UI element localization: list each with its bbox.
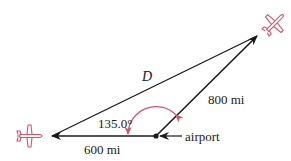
airport-point (153, 133, 158, 138)
distance-d-line (52, 36, 257, 136)
leg-800-label: 800 mi (208, 92, 245, 107)
angle-arc (128, 107, 176, 134)
leg-800-line (156, 36, 257, 136)
leg-600-label: 600 mi (84, 142, 121, 157)
airport-label: airport (185, 129, 220, 144)
airplane-left-icon (17, 125, 42, 147)
angle-label: 135.0° (98, 116, 132, 131)
airplane-right-icon (258, 7, 291, 40)
airplane-triangle-diagram: D 800 mi 135.0° airport 600 mi (0, 0, 291, 161)
distance-d-label: D (141, 69, 152, 84)
